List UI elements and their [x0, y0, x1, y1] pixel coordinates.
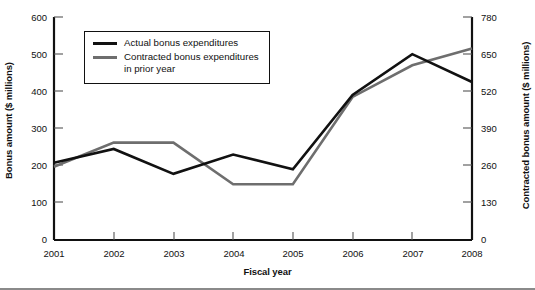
legend-swatch-actual-icon	[93, 42, 117, 45]
y-axis-right-ticks	[463, 17, 472, 202]
legend-label-contracted: Contracted bonus expenditures in prior y…	[124, 51, 259, 76]
legend-label-actual: Actual bonus expenditures	[124, 37, 238, 50]
x-axis-ticks	[114, 232, 412, 240]
legend-item-contracted: Contracted bonus expenditures in prior y…	[93, 51, 259, 76]
y-axis-left-ticks	[54, 17, 63, 202]
legend-swatch-contracted-icon	[93, 56, 117, 59]
chart-figure: Bonus amount ($ millions) Contracted bon…	[0, 0, 535, 290]
chart-legend: Actual bonus expenditures Contracted bon…	[84, 31, 270, 84]
legend-item-actual: Actual bonus expenditures	[93, 37, 259, 50]
